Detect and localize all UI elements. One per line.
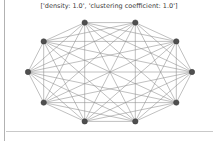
graph-edge (28, 23, 85, 72)
graph-edge (85, 23, 177, 42)
graph-edge (85, 41, 177, 121)
graph-edge (44, 23, 136, 103)
graph-edge (135, 41, 176, 121)
graph-edge (44, 41, 85, 121)
graph-edge (28, 72, 135, 121)
graph-edge (135, 23, 176, 42)
graph-edge (44, 103, 85, 122)
graph-node (133, 119, 138, 124)
graph-edges-group (28, 23, 192, 122)
network-graph (0, 0, 213, 141)
graph-edge (135, 23, 176, 103)
graph-edge (85, 72, 192, 121)
graph-edge (135, 103, 176, 122)
graph-node (133, 20, 138, 25)
graph-node (41, 39, 46, 44)
graph-node (174, 100, 179, 105)
graph-edge (176, 41, 192, 72)
graph-edge (28, 41, 44, 72)
graph-node (25, 69, 30, 74)
graph-node (174, 39, 179, 44)
graph-node (82, 119, 87, 124)
graph-edge (28, 41, 176, 72)
graph-node (189, 69, 194, 74)
graph-node (41, 100, 46, 105)
graph-edge (85, 23, 192, 72)
graph-edge (28, 23, 135, 72)
graph-edge (44, 23, 136, 42)
screenshot-root: ['density: 1.0', 'clustering coefficient… (0, 0, 213, 141)
graph-edge (176, 72, 192, 103)
figure-bottom-border (6, 131, 213, 132)
graph-node (82, 20, 87, 25)
graph-edge (44, 23, 85, 103)
graph-edge (44, 23, 85, 42)
graph-edge (28, 72, 44, 103)
